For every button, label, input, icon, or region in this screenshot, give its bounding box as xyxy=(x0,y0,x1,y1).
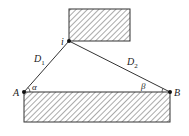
label-beta: β xyxy=(140,81,146,91)
angle-beta-arc xyxy=(162,88,163,92)
label-A: A xyxy=(12,87,20,98)
label-B: B xyxy=(174,87,180,98)
label-D2: D2 xyxy=(126,56,138,70)
label-i: i xyxy=(61,36,64,47)
top-block xyxy=(69,9,130,41)
point-A xyxy=(22,90,26,94)
segment-D2 xyxy=(69,41,170,92)
point-i xyxy=(67,39,71,43)
label-D1: D1 xyxy=(33,53,45,67)
label-alpha: α xyxy=(32,82,37,92)
segment-D1 xyxy=(24,41,69,92)
triangulation-diagram: i A B D1 D2 α β xyxy=(0,0,189,136)
angle-alpha-arc xyxy=(28,88,30,93)
point-B xyxy=(168,90,172,94)
bottom-block xyxy=(24,92,170,122)
